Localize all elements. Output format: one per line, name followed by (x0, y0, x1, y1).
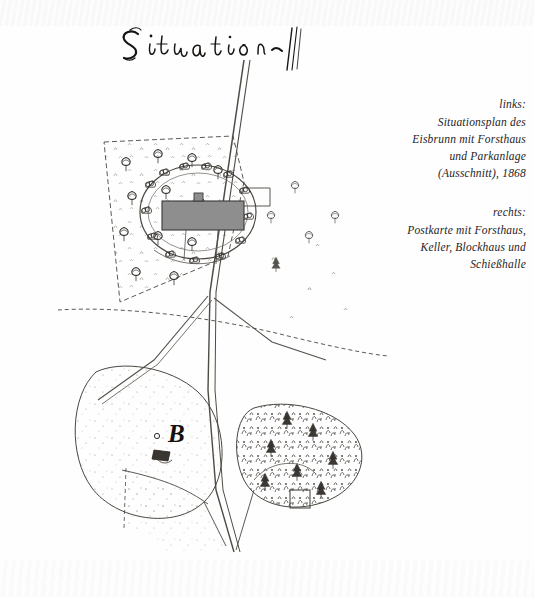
caption-line: Situationsplan des (366, 114, 526, 131)
field-marks-east (267, 181, 347, 318)
caption-block-links: links: Situationsplan des Eisbrunn mit F… (366, 96, 526, 182)
caption-line: Keller, Blockhaus und (366, 239, 526, 256)
scan-texture-bottom (0, 560, 534, 597)
building-b-structure (152, 450, 170, 461)
boundary-dashed-east (58, 309, 388, 356)
situation-plan-map: B (58, 60, 388, 560)
caption-line: und Parkanlage (366, 148, 526, 165)
caption-line: Eisbrunn mit Forsthaus (366, 131, 526, 148)
caption-line: Schießhalle (366, 256, 526, 273)
caption-column: links: Situationsplan des Eisbrunn mit F… (366, 96, 526, 295)
woodland-park-southeast (237, 404, 362, 507)
map-drawing: B (58, 60, 388, 560)
caption-line: (Ausschnitt), 1868 (366, 165, 526, 182)
page-canvas: B (0, 0, 534, 597)
caption-line: Postkarte mit Forsthaus, (366, 222, 526, 239)
caption-lead-links: links: (366, 96, 526, 113)
building-b-label: B (167, 420, 185, 447)
caption-lead-rechts: rechts: (366, 204, 526, 221)
caption-block-rechts: rechts: Postkarte mit Forsthaus, Keller,… (366, 204, 526, 273)
road-east-branch (214, 298, 326, 360)
